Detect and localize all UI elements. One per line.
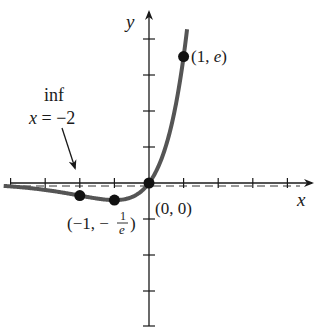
inflection-arrow <box>62 128 75 168</box>
point-label-min-close: ) <box>130 214 136 233</box>
point-marker <box>109 195 120 206</box>
point-marker <box>74 190 85 201</box>
function-graph: y x (1, e) (0, 0) (−1, − 1 e ) inf x = −… <box>0 0 322 332</box>
point-label-min: (−1, − <box>67 214 109 233</box>
point-label-origin: (0, 0) <box>155 199 192 218</box>
point-label-min-numerator: 1 <box>120 209 126 223</box>
point-marker <box>144 178 155 189</box>
point-marker <box>178 51 189 62</box>
point-label-min-denominator: e <box>119 222 125 237</box>
x-axis-label: x <box>296 189 306 210</box>
annotation-inf: inf <box>44 85 64 105</box>
y-axis-label: y <box>124 11 135 32</box>
point-label-1-e: (1, e) <box>191 47 227 66</box>
annotation-x-eq: x = −2 <box>28 108 75 128</box>
